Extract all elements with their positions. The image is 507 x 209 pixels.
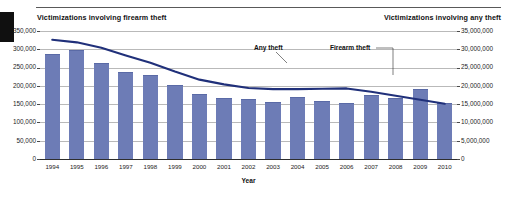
right-axis-tick-label: 30,000,000: [461, 46, 493, 52]
bar: [413, 89, 428, 159]
bar: [167, 85, 182, 159]
right-axis-title: Victimizations involving any theft: [384, 13, 501, 22]
x-axis-tick-label: 2003: [261, 163, 286, 170]
bar: [192, 94, 207, 159]
x-axis-tick-label: 2008: [383, 163, 408, 170]
left-tick-mark: [37, 86, 40, 87]
left-tick-mark: [37, 122, 40, 123]
right-tick-mark: [457, 86, 460, 87]
x-axis-tick-label: 2007: [359, 163, 384, 170]
x-axis-tick-label: 1995: [65, 163, 90, 170]
x-axis-tick-label: 2002: [236, 163, 261, 170]
left-axis-tick-label: 350,000: [13, 28, 36, 34]
left-tick-mark: [37, 141, 40, 142]
x-axis-tick-label: 2010: [432, 163, 457, 170]
bar: [45, 54, 60, 159]
x-axis-tick-label: 1997: [114, 163, 139, 170]
left-tick-mark: [37, 104, 40, 105]
chart-figure: Victimizations involving firearm theft V…: [0, 0, 507, 209]
axis-baseline: [40, 159, 457, 160]
left-tick-mark: [37, 49, 40, 50]
annotation-any-theft: Any theft: [254, 44, 283, 51]
bar: [143, 75, 158, 159]
bar: [118, 72, 133, 159]
left-axis-tick-label: 100,000: [13, 119, 36, 125]
page-edge-block: [0, 12, 14, 42]
left-axis-tick-label: 0: [32, 156, 36, 162]
x-axis-tick-label: 1998: [138, 163, 163, 170]
bar: [265, 102, 280, 159]
left-tick-mark: [37, 68, 40, 69]
x-axis-tick-label: 2004: [285, 163, 310, 170]
annotation-firearm-theft: Firearm theft: [330, 44, 370, 51]
right-tick-mark: [457, 159, 460, 160]
any-theft-leader-line: [276, 52, 287, 63]
right-axis-tick-label: 25,000,000: [461, 64, 493, 70]
gridline: [40, 49, 457, 50]
right-axis-tick-label: 0: [461, 156, 465, 162]
right-tick-mark: [457, 141, 460, 142]
right-tick-mark: [457, 31, 460, 32]
bar: [69, 50, 84, 159]
bar: [216, 98, 231, 159]
x-axis-tick-label: 2000: [187, 163, 212, 170]
x-axis-tick-label: 1999: [163, 163, 188, 170]
right-tick-mark: [457, 49, 460, 50]
bar: [339, 103, 354, 159]
right-tick-mark: [457, 122, 460, 123]
left-axis-tick-label: 300,000: [13, 46, 36, 52]
right-tick-mark: [457, 68, 460, 69]
right-axis-tick-label: 5,000,000: [461, 138, 489, 144]
left-tick-mark: [37, 159, 40, 160]
x-axis-tick-label: 2009: [408, 163, 433, 170]
left-tick-mark: [37, 31, 40, 32]
right-axis-tick-label: 35,000,000: [461, 28, 493, 34]
right-tick-mark: [457, 104, 460, 105]
bar: [437, 103, 452, 159]
right-axis-tick-label: 20,000,000: [461, 83, 493, 89]
x-axis-tick-label: 2005: [310, 163, 335, 170]
top-rule: [36, 7, 501, 8]
x-axis-tick-label: 2006: [334, 163, 359, 170]
right-axis-tick-label: 15,000,000: [461, 101, 493, 107]
left-axis-tick-label: 50,000: [16, 138, 36, 144]
x-axis-tick-label: 2001: [212, 163, 237, 170]
bar: [364, 95, 379, 159]
left-axis-tick-label: 250,000: [13, 64, 36, 70]
firearm-theft-leader-line: [376, 48, 393, 75]
bar: [388, 98, 403, 159]
bar: [94, 63, 109, 159]
x-axis-label: Year: [40, 177, 457, 184]
x-axis-tick-label: 1996: [89, 163, 114, 170]
right-axis-tick-label: 10,000,000: [461, 119, 493, 125]
left-axis-title: Victimizations involving firearm theft: [37, 13, 166, 22]
bar: [290, 97, 305, 159]
left-axis-tick-label: 200,000: [13, 83, 36, 89]
bar: [241, 99, 256, 159]
gridline: [40, 31, 457, 32]
plot-area: 050,000100,000150,000200,000250,000300,0…: [40, 31, 457, 159]
bar: [314, 101, 329, 159]
left-axis-tick-label: 150,000: [13, 101, 36, 107]
x-axis-tick-label: 1994: [40, 163, 65, 170]
